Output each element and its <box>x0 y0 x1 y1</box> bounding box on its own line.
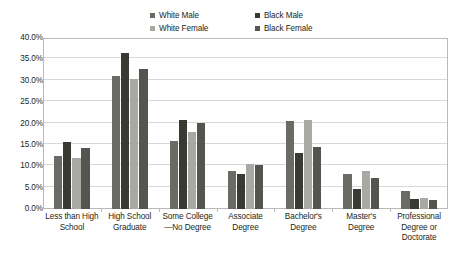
x-axis-label: Less than HighSchool <box>43 212 101 233</box>
legend-swatch-white-female <box>150 26 155 31</box>
x-axis-label-line: Degree or <box>390 223 448 234</box>
bar <box>410 199 418 209</box>
bar <box>63 142 71 209</box>
y-tick-label: 0.0% <box>5 205 43 213</box>
legend-swatch-black-female <box>255 26 260 31</box>
x-axis-label-line: Bachelor's <box>274 212 332 223</box>
legend-item-black-female: Black Female <box>255 22 345 35</box>
bar <box>362 171 370 209</box>
y-tick-label: 35.0% <box>5 55 43 63</box>
y-tick-label: 5.0% <box>5 184 43 192</box>
y-tick-label: 20.0% <box>5 120 43 128</box>
x-axis-label-line: Some College <box>159 212 217 223</box>
x-axis-label-line: Professional <box>390 212 448 223</box>
x-axis-label-line: Associate <box>217 212 275 223</box>
bar <box>188 132 196 209</box>
bar <box>197 123 205 209</box>
bar-group <box>274 38 332 209</box>
bar <box>343 174 351 209</box>
chart-legend: White Male White Female Black Male Black… <box>150 9 340 35</box>
bar <box>401 191 409 209</box>
bar <box>139 69 147 209</box>
y-tick-label: 15.0% <box>5 141 43 149</box>
x-axis-labels: Less than HighSchoolHigh SchoolGraduateS… <box>43 212 448 260</box>
bar <box>121 53 129 209</box>
bar-group <box>43 38 101 209</box>
x-tick-mark <box>332 209 333 212</box>
bar-groups-layer <box>43 38 448 209</box>
bar <box>353 189 361 209</box>
legend-swatch-white-male <box>150 13 155 18</box>
x-axis-label-line: Master's <box>332 212 390 223</box>
bar <box>246 164 254 209</box>
bar <box>304 120 312 209</box>
x-axis-label-line: Less than High <box>43 212 101 223</box>
legend-column-left: White Male White Female <box>150 9 240 35</box>
bar <box>179 120 187 209</box>
legend-label-black-female: Black Female <box>264 24 312 33</box>
x-axis-label: Master'sDegree <box>332 212 390 233</box>
x-axis-label-line: Graduate <box>101 223 159 234</box>
bar <box>371 178 379 209</box>
bar-group <box>159 38 217 209</box>
x-axis-label: Some College—No Degree <box>159 212 217 233</box>
y-tick-label: 10.0% <box>5 162 43 170</box>
bar <box>237 174 245 209</box>
y-tick-label: 25.0% <box>5 98 43 106</box>
legend-swatch-black-male <box>255 13 260 18</box>
legend-item-black-male: Black Male <box>255 9 345 22</box>
bar <box>295 153 303 209</box>
bar <box>170 141 178 209</box>
x-axis-label: High SchoolGraduate <box>101 212 159 233</box>
bar-group <box>390 38 448 209</box>
y-axis: 0.0%5.0%10.0%15.0%20.0%25.0%30.0%35.0%40… <box>0 38 43 209</box>
y-tick-label: 30.0% <box>5 77 43 85</box>
x-axis-label-line: Doctorate <box>390 233 448 244</box>
bar <box>228 171 236 209</box>
bar <box>81 148 89 209</box>
x-axis-label: Bachelor'sDegree <box>274 212 332 233</box>
x-axis-label-line: Degree <box>217 223 275 234</box>
legend-column-right: Black Male Black Female <box>255 9 345 35</box>
x-tick-mark <box>390 209 391 212</box>
x-axis-label-line: Degree <box>274 223 332 234</box>
x-axis-label-line: School <box>43 223 101 234</box>
x-tick-mark <box>274 209 275 212</box>
bar <box>429 200 437 209</box>
bar-chart: White Male White Female Black Male Black… <box>0 0 459 263</box>
bar <box>72 158 80 209</box>
bar <box>313 147 321 209</box>
legend-item-white-female: White Female <box>150 22 240 35</box>
x-axis-label: ProfessionalDegree orDoctorate <box>390 212 448 244</box>
bar-group <box>101 38 159 209</box>
bar <box>255 165 263 209</box>
x-axis-label-line: High School <box>101 212 159 223</box>
bar <box>286 121 294 209</box>
x-tick-mark <box>217 209 218 212</box>
legend-label-white-male: White Male <box>159 11 199 20</box>
bar <box>130 79 138 209</box>
y-tick-label: 40.0% <box>5 34 43 42</box>
x-tick-mark <box>101 209 102 212</box>
x-tick-mark <box>159 209 160 212</box>
bar <box>54 156 62 209</box>
x-axis-label-line: Degree <box>332 223 390 234</box>
bar-group <box>217 38 275 209</box>
bar <box>112 76 120 209</box>
bar-group <box>332 38 390 209</box>
legend-label-black-male: Black Male <box>264 11 303 20</box>
x-axis-label: AssociateDegree <box>217 212 275 233</box>
bar <box>420 198 428 209</box>
legend-label-white-female: White Female <box>159 24 208 33</box>
legend-item-white-male: White Male <box>150 9 240 22</box>
x-axis-label-line: —No Degree <box>159 223 217 234</box>
